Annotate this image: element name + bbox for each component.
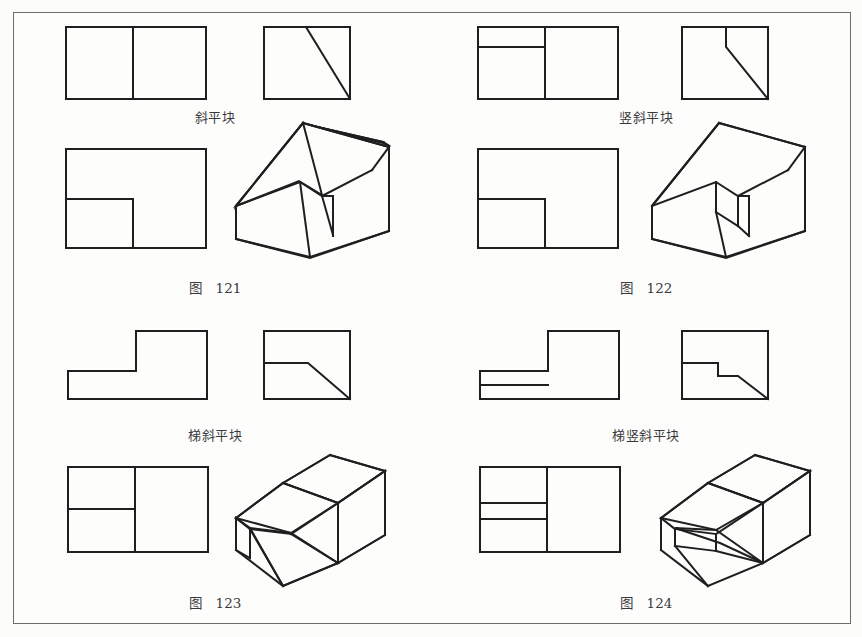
figure-panel-122: 竖斜平块 图122 [430,0,862,318]
figure-121-caption-number: 121 [216,280,242,296]
fig124-pictorial-view [661,455,810,586]
figure-panel-124: 梯竖斜平块 图124 [430,318,862,637]
figure-124-caption: 图124 [430,592,862,612]
figure-121-caption-word: 图 [189,280,202,296]
figure-124-caption-number: 124 [647,595,673,611]
fig123-pictorial-view [236,455,385,586]
fig122-pictorial-view [652,123,805,258]
fig123-top-right-view [264,331,350,399]
fig121-front-view [66,149,206,248]
figure-122-caption-number: 122 [647,280,673,296]
fig124-front-view [480,467,620,552]
figure-123-caption-number: 123 [216,595,242,611]
fig122-front-view [478,149,618,248]
fig123-top-left-view [68,331,207,399]
figure-124-caption-word: 图 [620,595,633,611]
figure-123-caption-word: 图 [189,595,202,611]
figure-121-title: 斜平块 [0,107,430,126]
figure-panel-121: 斜平块 图121 [0,0,430,318]
drawing-page: 斜平块 图121 [0,0,862,637]
figure-122-drawing [430,0,862,318]
fig121-top-left-view [66,27,206,99]
fig122-top-left-view [478,27,618,99]
fig124-top-right-view [682,331,768,399]
figure-121-drawing [0,0,430,318]
fig124-top-left-view [480,331,619,399]
figure-124-title: 梯竖斜平块 [430,425,862,444]
figure-123-caption: 图123 [0,592,430,612]
figure-121-caption: 图121 [0,277,430,297]
fig123-front-view [68,467,208,552]
fig121-pictorial-view [236,123,389,258]
figure-panel-123: 梯斜平块 图123 [0,318,430,637]
figure-122-caption: 图122 [430,277,862,297]
figure-122-title: 竖斜平块 [430,107,862,126]
fig121-top-right-view [264,27,350,99]
fig122-top-right-view [682,27,768,99]
figure-122-caption-word: 图 [620,280,633,296]
figure-124-drawing [430,318,862,637]
figure-123-title: 梯斜平块 [0,425,430,444]
figure-123-drawing [0,318,430,637]
